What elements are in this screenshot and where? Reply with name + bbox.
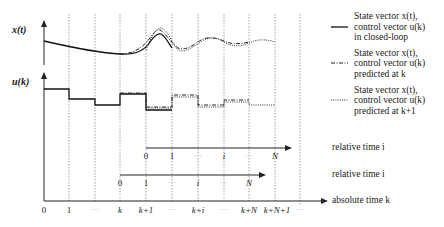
legend-line: control vector u(k) <box>354 95 425 106</box>
tick-label: 1 <box>67 205 72 215</box>
control-predicted-k <box>120 93 249 107</box>
tick-label: ··· <box>220 205 228 214</box>
absolute-axis-label: absolute time k <box>332 195 390 205</box>
vertical-grid-lines <box>69 14 300 206</box>
tick-label: i <box>197 178 200 188</box>
tick-label: k <box>118 205 122 215</box>
legend-line: predicted at k <box>354 69 406 80</box>
tick-label: N <box>272 151 278 161</box>
control-axis-label: u(k) <box>12 76 29 87</box>
relative-axis-lower <box>120 172 266 178</box>
tick-label: ··· <box>220 178 228 187</box>
state-axis-label: x(t) <box>12 24 26 35</box>
legend-line: State vector x(t), <box>354 85 418 96</box>
tick-label: k+1 <box>139 205 154 215</box>
tick-label: ··· <box>296 205 304 214</box>
legend-line: in closed-loop <box>354 32 408 43</box>
tick-label: k+N <box>241 205 257 215</box>
tick-label: 0 <box>144 151 149 161</box>
legend-line: predicted at k+1 <box>354 106 416 117</box>
state-curve-closed-loop <box>44 34 172 54</box>
relative-axis-upper <box>146 145 292 151</box>
tick-label: N <box>246 178 252 188</box>
tick-label: 1 <box>170 151 175 161</box>
tick-label: 1 <box>144 178 149 188</box>
tick-label: ··· <box>168 205 176 214</box>
legend-line: State vector x(t), <box>354 48 418 59</box>
legend-line: control vector u(k) <box>354 22 425 33</box>
legend-line: control vector u(k) <box>354 58 425 69</box>
tick-label: ··· <box>168 178 176 187</box>
relative-axis-lower-label: relative time i <box>332 169 385 179</box>
relative-axis-upper-label: relative time i <box>332 142 385 152</box>
control-predicted-k1 <box>146 97 275 108</box>
tick-label: k+i <box>192 205 205 215</box>
tick-label: 0 <box>118 178 123 188</box>
legend-line: State vector x(t), <box>354 11 418 22</box>
tick-label: k+N+1 <box>264 205 291 215</box>
tick-label: 0 <box>42 205 47 215</box>
tick-label: ··· <box>194 151 202 160</box>
state-curve-predicted-k1 <box>146 28 275 51</box>
tick-label: ··· <box>245 151 253 160</box>
state-axis <box>41 20 47 65</box>
control-closed-loop <box>44 89 172 110</box>
tick-label: i <box>223 151 226 161</box>
absolute-axis <box>44 198 328 204</box>
tick-label: ··· <box>91 205 99 214</box>
control-axis <box>41 72 47 201</box>
